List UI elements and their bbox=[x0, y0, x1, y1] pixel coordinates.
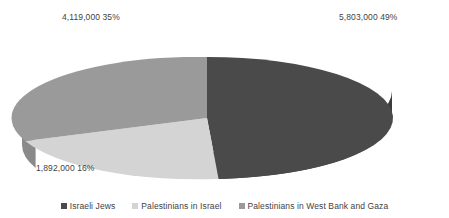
legend-swatch-icon-west-bank-gaza bbox=[239, 203, 245, 209]
legend-item-israeli-jews[interactable]: Israeli Jews bbox=[61, 201, 116, 211]
legend-label-israeli-jews: Israeli Jews bbox=[70, 201, 116, 211]
pie-slice-top-israeli-jews bbox=[207, 57, 393, 179]
legend-item-west-bank-gaza[interactable]: Palestinians in West Bank and Gaza bbox=[239, 201, 389, 211]
legend-item-palestinians-israel[interactable]: Palestinians in Israel bbox=[132, 201, 221, 211]
legend-label-west-bank-gaza: Palestinians in West Bank and Gaza bbox=[248, 201, 389, 211]
chart-legend: Israeli Jews Palestinians in Israel Pale… bbox=[0, 199, 449, 213]
legend-swatch-icon-israeli-jews bbox=[61, 203, 67, 209]
data-label-israeli-jews: 5,803,000 49% bbox=[339, 12, 398, 23]
data-label-west-bank-gaza: 4,119,000 35% bbox=[62, 12, 120, 23]
legend-swatch-icon-palestinians-israel bbox=[132, 203, 138, 209]
data-label-palestinians-israel: 1,892,000 16% bbox=[36, 163, 95, 174]
pie-chart: 4,119,000 35% 5,803,000 49% 1,892,000 16… bbox=[0, 0, 449, 218]
legend-label-palestinians-israel: Palestinians in Israel bbox=[141, 201, 221, 211]
